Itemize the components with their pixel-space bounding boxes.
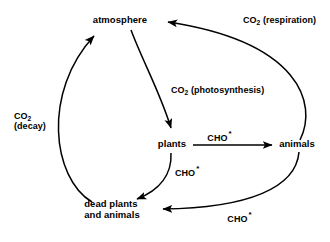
node-animals: animals — [279, 139, 315, 149]
arrow-animals-to-dead — [163, 152, 299, 209]
node-animals-label: animals — [279, 138, 315, 149]
edge-label-respiration: CO2 (respiration) — [243, 16, 316, 26]
subscript-two: 2 — [257, 19, 261, 26]
node-plants-label: plants — [158, 138, 186, 149]
node-plants: plants — [158, 139, 186, 149]
node-dead-plants-and-animals: dead plants and animals — [84, 199, 139, 220]
subscript-two: 2 — [185, 89, 189, 96]
edge-label-photosynthesis: CO2 (photosynthesis) — [171, 86, 264, 96]
node-atmosphere-label: atmosphere — [93, 14, 147, 25]
edge-label-decay-line2: (decay) — [14, 122, 46, 132]
edge-label-photosynthesis-prefix: CO — [171, 85, 185, 95]
arrow-decay — [58, 36, 94, 202]
arrow-photosynthesis — [131, 30, 171, 128]
edge-label-plants-to-dead: CHO* — [175, 166, 198, 179]
subscript-two: 2 — [28, 115, 32, 122]
arrow-respiration — [168, 22, 306, 140]
asterisk-marker: * — [228, 129, 231, 138]
node-atmosphere: atmosphere — [93, 15, 147, 25]
edge-label-respiration-suffix: (respiration) — [260, 15, 316, 25]
edge-label-decay: CO2 (decay) — [14, 112, 46, 131]
edge-label-animals-to-dead: CHO* — [227, 212, 250, 225]
edge-label-photosynthesis-suffix: (photosynthesis) — [188, 85, 264, 95]
diagram-arrows-layer — [0, 0, 330, 242]
arrow-plants-to-dead — [137, 153, 171, 199]
edge-label-respiration-prefix: CO — [243, 15, 257, 25]
node-dead-plants-line2: and animals — [84, 210, 139, 221]
edge-label-plants-to-animals: CHO* — [207, 131, 230, 144]
asterisk-marker: * — [248, 210, 251, 219]
carbon-cycle-diagram: atmosphere plants animals dead plants an… — [0, 0, 330, 242]
asterisk-marker: * — [196, 164, 199, 173]
